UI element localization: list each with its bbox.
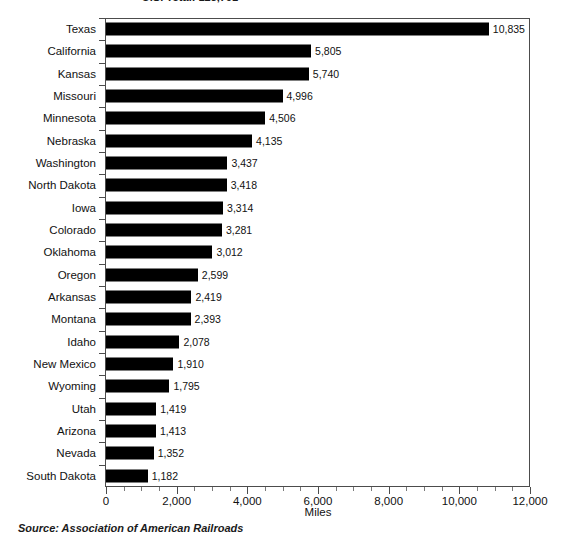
- bar: [106, 45, 311, 58]
- category-label: Idaho: [0, 336, 96, 348]
- x-axis-minor-tick: [194, 487, 195, 491]
- bar-row: Missouri4,996: [0, 85, 562, 107]
- y-axis-tick: [99, 85, 105, 86]
- bar-row: Idaho2,078: [0, 331, 562, 353]
- bar-value-label: 2,599: [202, 269, 228, 281]
- bar-row: New Mexico1,910: [0, 353, 562, 375]
- x-axis-minor-tick: [353, 487, 354, 491]
- x-axis-minor-tick: [477, 487, 478, 491]
- bar-value-label: 5,805: [315, 45, 341, 57]
- y-axis-tick: [99, 197, 105, 198]
- x-axis-minor-tick: [283, 487, 284, 491]
- x-axis-minor-tick: [371, 487, 372, 491]
- category-label: Kansas: [0, 68, 96, 80]
- category-label: South Dakota: [0, 470, 96, 482]
- y-axis-tick: [99, 353, 105, 354]
- x-axis-minor-tick: [495, 487, 496, 491]
- category-label: New Mexico: [0, 358, 96, 370]
- x-axis-minor-tick: [265, 487, 266, 491]
- category-label: Oklahoma: [0, 246, 96, 258]
- bar-row: California5,805: [0, 40, 562, 62]
- category-label: Utah: [0, 403, 96, 415]
- bar: [106, 224, 222, 237]
- category-label: California: [0, 45, 96, 57]
- bar-row: South Dakota1,182: [0, 465, 562, 487]
- bar-row: Oklahoma3,012: [0, 241, 562, 263]
- y-axis-tick: [99, 152, 105, 153]
- y-axis-tick: [99, 465, 105, 466]
- bar-row: Arkansas2,419: [0, 286, 562, 308]
- bar: [106, 201, 223, 214]
- category-label: Colorado: [0, 224, 96, 236]
- bar: [106, 358, 173, 371]
- y-axis-tick: [99, 63, 105, 64]
- chart-title: U.S. Total: 123,791: [0, 0, 380, 3]
- bar-value-label: 4,996: [287, 90, 313, 102]
- y-axis-tick: [99, 398, 105, 399]
- x-axis-minor-tick: [141, 487, 142, 491]
- y-axis-tick: [99, 308, 105, 309]
- bar-value-label: 1,413: [160, 425, 186, 437]
- bar-value-label: 1,182: [152, 470, 178, 482]
- bar-value-label: 2,393: [195, 313, 221, 325]
- y-axis-tick: [99, 264, 105, 265]
- y-axis-tick: [99, 442, 105, 443]
- y-axis-tick: [99, 18, 105, 19]
- category-label: Nebraska: [0, 135, 96, 147]
- bar-value-label: 4,506: [269, 112, 295, 124]
- bar: [106, 67, 309, 80]
- bar-value-label: 3,437: [231, 157, 257, 169]
- bar-row: Nevada1,352: [0, 442, 562, 464]
- bar-value-label: 3,418: [231, 179, 257, 191]
- bar-row: Texas10,835: [0, 18, 562, 40]
- x-axis-title: Miles: [105, 506, 531, 518]
- bar: [106, 157, 227, 170]
- category-label: Wyoming: [0, 380, 96, 392]
- x-axis-major-tick: [389, 487, 390, 494]
- category-label: Texas: [0, 23, 96, 35]
- bar-series: Texas10,835California5,805Kansas5,740Mis…: [0, 18, 562, 487]
- x-axis-minor-tick: [512, 487, 513, 491]
- bar-row: Iowa3,314: [0, 197, 562, 219]
- x-axis-major-tick: [318, 487, 319, 494]
- bar: [106, 469, 148, 482]
- category-label: Minnesota: [0, 112, 96, 124]
- y-axis-tick: [99, 286, 105, 287]
- y-axis-tick: [99, 130, 105, 131]
- x-axis-minor-tick: [442, 487, 443, 491]
- bar-value-label: 2,078: [183, 336, 209, 348]
- x-axis-major-tick: [459, 487, 460, 494]
- bar: [106, 402, 156, 415]
- bar-row: Arizona1,413: [0, 420, 562, 442]
- x-axis-minor-tick: [406, 487, 407, 491]
- bar-value-label: 1,795: [173, 380, 199, 392]
- bar: [106, 291, 191, 304]
- bar-row: Utah1,419: [0, 398, 562, 420]
- bar: [106, 447, 154, 460]
- bar-value-label: 10,835: [493, 23, 525, 35]
- y-axis-tick: [99, 40, 105, 41]
- bar-value-label: 4,135: [256, 135, 282, 147]
- y-axis-tick: [99, 107, 105, 108]
- bar-row: Nebraska4,135: [0, 130, 562, 152]
- x-axis-major-tick: [106, 487, 107, 494]
- bar-row: Montana2,393: [0, 308, 562, 330]
- category-label: Arkansas: [0, 291, 96, 303]
- x-axis-major-tick: [247, 487, 248, 494]
- bar-row: Kansas5,740: [0, 63, 562, 85]
- bar-value-label: 2,419: [195, 291, 221, 303]
- bar: [106, 268, 198, 281]
- category-label: North Dakota: [0, 179, 96, 191]
- bar: [106, 246, 212, 259]
- y-axis-tick: [99, 331, 105, 332]
- bar-row: Wyoming1,795: [0, 375, 562, 397]
- category-label: Missouri: [0, 90, 96, 102]
- y-axis-tick: [99, 375, 105, 376]
- x-axis-major-tick: [530, 487, 531, 494]
- bar-value-label: 1,910: [177, 358, 203, 370]
- x-axis-minor-tick: [424, 487, 425, 491]
- x-axis-minor-tick: [124, 487, 125, 491]
- category-label: Montana: [0, 313, 96, 325]
- bar: [106, 112, 265, 125]
- bar-value-label: 3,314: [227, 202, 253, 214]
